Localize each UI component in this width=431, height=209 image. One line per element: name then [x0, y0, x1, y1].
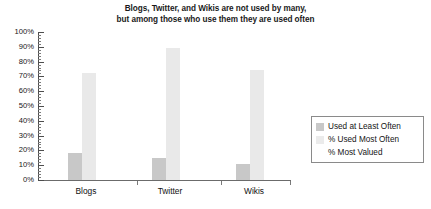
legend-swatch-icon [316, 149, 324, 157]
y-axis-tick-label: 90% [0, 43, 34, 51]
y-axis-labels: 100% 90% 80% 70% 60% 50% 40% 30% 20% 10%… [0, 32, 34, 180]
y-axis-tick-label: 30% [0, 132, 34, 140]
legend-item[interactable]: % Used Most Often [316, 133, 419, 146]
x-axis-tick [221, 181, 222, 185]
chart-legend: Used at Least Often % Used Most Often % … [311, 116, 424, 163]
legend-item-label: Used at Least Often [328, 122, 401, 132]
y-axis-major-tick [38, 180, 44, 181]
x-axis-line [38, 180, 291, 181]
legend-item-label: % Used Most Often [328, 135, 399, 145]
x-axis-category-label-twitter: Twitter [133, 186, 207, 196]
bar [166, 48, 180, 180]
bar [236, 164, 250, 180]
bars-layer [39, 32, 291, 180]
chart-container: Blogs, Twitter, and Wikis are not used b… [0, 0, 431, 209]
y-axis-tick-label: 100% [0, 28, 34, 36]
y-axis-tick-label: 40% [0, 117, 34, 125]
chart-title-line-1: Blogs, Twitter, and Wikis are not used b… [0, 3, 431, 14]
x-axis-tick [290, 181, 291, 185]
y-axis-tick-label: 80% [0, 58, 34, 66]
y-axis-tick-label: 70% [0, 72, 34, 80]
bar [152, 158, 166, 180]
x-axis-category-label-wikis: Wikis [217, 186, 291, 196]
y-axis-tick-label: 20% [0, 146, 34, 154]
x-axis-category-label-blogs: Blogs [49, 186, 123, 196]
x-axis-tick [137, 181, 138, 185]
bar [82, 73, 96, 180]
legend-item[interactable]: % Most Valued [316, 146, 419, 159]
bar [250, 70, 264, 180]
y-axis-tick-label: 60% [0, 87, 34, 95]
legend-swatch-icon [316, 136, 324, 144]
bar [68, 153, 82, 180]
legend-item-label: % Most Valued [328, 148, 382, 158]
chart-title-line-2: but among those who use them they are us… [0, 14, 431, 25]
y-axis-tick-label: 50% [0, 102, 34, 110]
legend-item[interactable]: Used at Least Often [316, 120, 419, 133]
chart-title: Blogs, Twitter, and Wikis are not used b… [0, 3, 431, 25]
y-axis-tick-label: 0% [0, 176, 34, 184]
y-axis-tick-label: 10% [0, 161, 34, 169]
legend-swatch-icon [316, 123, 324, 131]
